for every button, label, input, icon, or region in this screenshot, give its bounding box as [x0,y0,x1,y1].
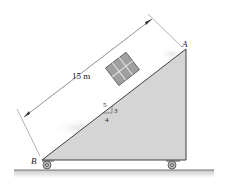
wheel-right [166,161,180,169]
slope-hypotenuse-label: 5 [103,101,107,109]
ground-shadow [14,170,214,178]
slope-run-label: 4 [105,116,109,124]
slope-rise-label: 3 [114,107,118,115]
point-b-label: B [31,156,37,166]
diagram-canvas: 5 3 4 15 m A B [0,0,228,184]
point-a-label: A [181,39,188,49]
dimension-label: 15 m [72,71,90,81]
wheel-left [42,161,54,169]
crate [105,52,139,85]
